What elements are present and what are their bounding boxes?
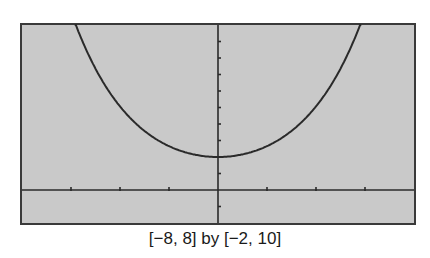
window-caption: [−8, 8] by [−2, 10] <box>0 229 430 249</box>
function-plot <box>0 0 430 258</box>
axes <box>22 25 414 223</box>
